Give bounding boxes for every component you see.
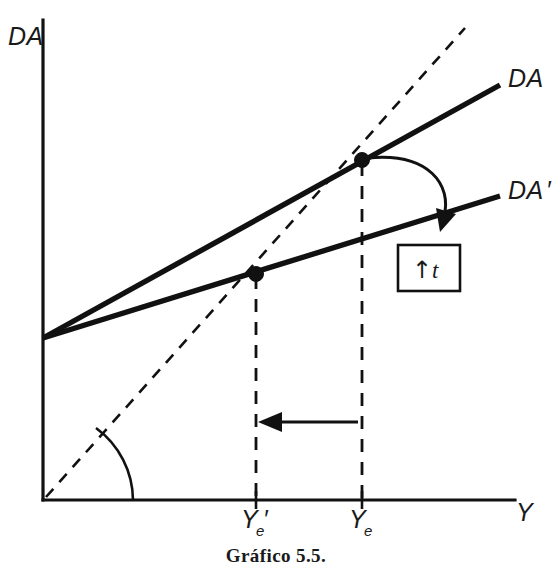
da-curve-label: DA: [508, 64, 544, 92]
tax-up-arrow-icon: ↑: [412, 256, 432, 284]
figure-caption: Gráfico 5.5.: [0, 545, 552, 567]
contraction-arrow-head: [258, 412, 282, 432]
x-tick-label-ye-prime-prime: ′: [263, 505, 269, 533]
x-tick-label-ye-subscript: e: [364, 522, 372, 539]
da-line: [43, 85, 500, 338]
figure-container: ↑ t DA Y DA DA ′ Y e ′ Y e Gráfico 5.5.: [0, 0, 552, 580]
equilibrium-point-ye-prime: [249, 267, 264, 282]
x-axis-label: Y: [516, 498, 535, 526]
y-axis-label: DA: [8, 22, 44, 50]
shock-annotation-box: ↑ t: [398, 245, 460, 291]
output-contraction-arrow: [258, 412, 358, 432]
tax-variable-label: t: [432, 258, 439, 283]
origin-angle-arc: [96, 428, 133, 500]
aggregate-demand-diagram: ↑ t DA Y DA DA ′ Y e ′ Y e: [0, 0, 552, 580]
da-prime-curve-label: DA ′: [508, 176, 552, 204]
equilibrium-point-ye: [355, 153, 370, 168]
x-tick-label-ye-prime: Y e ′: [241, 505, 269, 539]
x-tick-label-ye: Y e: [349, 505, 372, 539]
da-prime-curve-label-prime: ′: [546, 176, 552, 204]
da-prime-curve-label-text: DA: [508, 176, 544, 204]
